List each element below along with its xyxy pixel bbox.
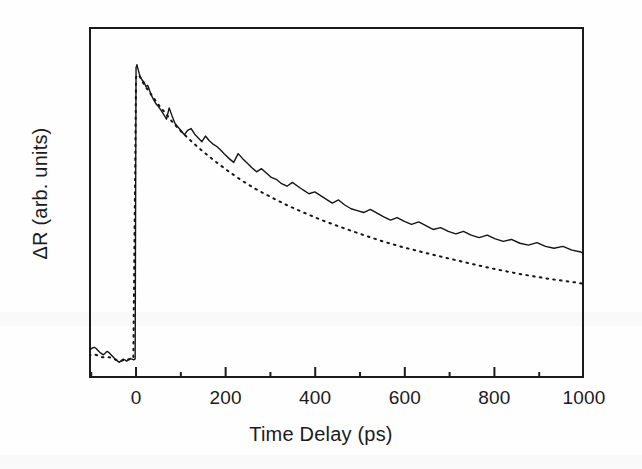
x-tick-label: 1000 <box>562 387 605 409</box>
x-tick-label: 400 <box>299 387 331 409</box>
x-tick-label: 0 <box>131 387 142 409</box>
x-axis-title: Time Delay (ps) <box>0 423 642 446</box>
x-tick-label: 200 <box>209 387 241 409</box>
x-tick-label: 800 <box>478 387 510 409</box>
x-tick-label: 600 <box>389 387 421 409</box>
y-axis-title: ΔR (arb. units) <box>29 74 52 314</box>
data-series-fit <box>89 75 584 361</box>
plot-area <box>89 27 584 378</box>
scan-artifact-band-lower <box>0 455 642 469</box>
